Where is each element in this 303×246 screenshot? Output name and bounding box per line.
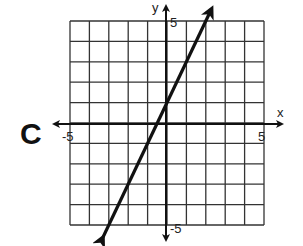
x-tick-max: 5: [258, 129, 265, 144]
y-axis-label: y: [152, 0, 159, 15]
y-tick-min: -5: [170, 221, 182, 236]
x-tick-min: -5: [62, 129, 74, 144]
x-axis-label: x: [277, 105, 284, 120]
coordinate-plane: x y -5 5 5 -5: [0, 0, 303, 246]
y-tick-max: 5: [170, 15, 177, 30]
